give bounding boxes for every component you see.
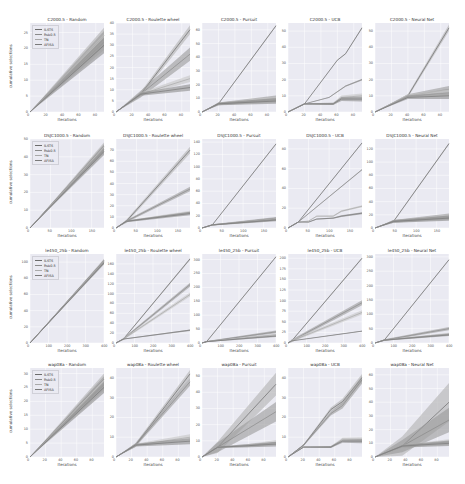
y-tick-label: 30 (110, 396, 114, 400)
y-tick-label: 80 (369, 173, 373, 177)
y-tick-label: 120 (108, 282, 114, 286)
legend-swatch-icon (35, 265, 42, 266)
legend-label: AFISA (44, 43, 54, 47)
legend-item: AFISA (35, 42, 56, 47)
y-tick-label: 60 (24, 292, 28, 296)
legend-swatch-icon (35, 29, 42, 30)
y-tick-label: 50 (196, 374, 200, 378)
y-tick-label: 50 (282, 29, 286, 33)
y-tick-label: 200 (367, 284, 373, 288)
y-tick-label: 20 (24, 46, 28, 50)
legend-label: AFISA (44, 274, 54, 278)
subplot-title: wap08a - Neural Net (375, 362, 449, 367)
y-tick-label: 5 (26, 441, 28, 445)
subplot-title: le450_25b - Roulette wheel (116, 248, 190, 253)
y-tick-label: 0 (26, 110, 28, 114)
x-axis-label: Iterations (30, 117, 104, 122)
y-tick-label: 20 (24, 325, 28, 329)
y-axis-label: cumulative selections (8, 275, 13, 319)
y-tick-label: 60 (110, 159, 114, 163)
subplot-title: le450_25b - Neural Net (375, 248, 449, 253)
plot-area (202, 254, 276, 343)
legend-label: AFISA (44, 159, 54, 163)
y-tick-label: 35 (110, 32, 114, 36)
y-tick-label: 75 (282, 309, 286, 313)
y-tick-label: 15 (110, 77, 114, 81)
y-tick-label: 0 (112, 226, 114, 230)
y-tick-label: 175 (280, 267, 286, 271)
y-tick-label: 10 (196, 96, 200, 100)
subplot-3-4: wap08a - Neural Net020406080010203040506… (375, 368, 449, 457)
y-tick-label: 70 (110, 148, 114, 152)
y-tick-label: 0 (371, 110, 373, 114)
y-tick-label: 200 (194, 285, 200, 289)
subplot-1-1: DSJC1000.5 - Roulette wheel0501001500102… (116, 139, 190, 228)
y-tick-label: 5 (112, 99, 114, 103)
y-tick-label: 10 (196, 439, 200, 443)
legend-label: ILSTS (44, 259, 53, 263)
plot-area (375, 23, 449, 112)
y-tick-label: 0 (371, 226, 373, 230)
y-tick-label: 10 (110, 215, 114, 219)
subplot-1-2: DSJC1000.5 - Pursuit05010015002040608010… (202, 139, 276, 228)
legend-swatch-icon (35, 374, 42, 375)
plot-area (375, 368, 449, 457)
legend: ILSTSRsb0.5TNAFISA (32, 256, 59, 280)
y-tick-label: 20 (196, 83, 200, 87)
y-tick-label: 80 (196, 177, 200, 181)
subplot-title: le450_25b - Random (30, 248, 104, 253)
y-tick-label: 300 (194, 258, 200, 262)
y-tick-label: 100 (367, 160, 373, 164)
y-tick-label: 60 (282, 167, 286, 171)
y-tick-label: 60 (196, 189, 200, 193)
y-tick-label: 40 (282, 186, 286, 190)
y-tick-label: 40 (24, 155, 28, 159)
y-tick-label: 50 (110, 170, 114, 174)
subplot-title: wap08a - Random (30, 362, 104, 367)
x-axis-label: Iterations (202, 348, 276, 353)
y-tick-label: 20 (196, 214, 200, 218)
subplot-1-3: DSJC1000.5 - UCB050100150020406080Iterat… (288, 139, 362, 228)
y-tick-label: 30 (24, 173, 28, 177)
y-tick-label: 40 (196, 201, 200, 205)
subplot-title: wap08a - Pursuit (202, 362, 276, 367)
subplot-title: C2000.5 - Roulette wheel (116, 17, 190, 22)
y-tick-label: 50 (369, 29, 373, 33)
legend-label: Rsb0.5 (44, 33, 56, 37)
y-tick-label: 50 (369, 387, 373, 391)
legend-label: ILSTS (44, 373, 53, 377)
plot-area (202, 139, 276, 228)
legend-label: TN (44, 269, 49, 273)
y-tick-label: 30 (196, 69, 200, 73)
y-tick-label: 20 (369, 428, 373, 432)
subplot-title: DSJC1000.5 - Pursuit (202, 133, 276, 138)
subplot-2-4: le450_25b - Neural Net010020030040005010… (375, 254, 449, 343)
y-tick-label: 40 (282, 45, 286, 49)
y-tick-label: 30 (110, 43, 114, 47)
y-tick-label: 30 (282, 396, 286, 400)
y-tick-label: 20 (369, 78, 373, 82)
y-tick-label: 30 (369, 414, 373, 418)
plot-area (375, 254, 449, 343)
y-tick-label: 20 (110, 415, 114, 419)
legend-swatch-icon (35, 155, 42, 156)
y-tick-label: 0 (26, 226, 28, 230)
y-axis-label: cumulative selections (8, 44, 13, 88)
y-tick-label: 50 (196, 327, 200, 331)
legend-item: AFISA (35, 387, 56, 392)
y-tick-label: 50 (196, 42, 200, 46)
legend-swatch-icon (35, 39, 42, 40)
y-tick-label: 30 (369, 61, 373, 65)
subplot-title: C2000.5 - Neural Net (375, 17, 449, 22)
legend: ILSTSRsb0.5TNAFISA (32, 25, 59, 49)
y-tick-label: 40 (196, 55, 200, 59)
legend-swatch-icon (35, 44, 42, 45)
y-tick-label: 0 (112, 455, 114, 459)
subplot-3-1: wap08a - Roulette wheel02040608001020304… (116, 368, 190, 457)
y-tick-label: 15 (24, 62, 28, 66)
y-tick-label: 20 (24, 190, 28, 194)
legend-label: TN (44, 383, 49, 387)
subplot-2-0: le450_25b - Random0100200300400020406080… (30, 254, 104, 343)
subplot-title: DSJC1000.5 - UCB (288, 133, 362, 138)
y-tick-label: 10 (369, 94, 373, 98)
